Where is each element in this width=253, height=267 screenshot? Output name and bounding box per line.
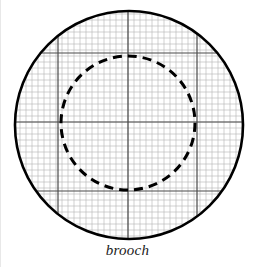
brooch-diagram <box>1 0 253 253</box>
grid-group <box>1 0 253 253</box>
brooch-figure: brooch <box>0 0 253 267</box>
figure-caption: brooch <box>1 242 253 259</box>
